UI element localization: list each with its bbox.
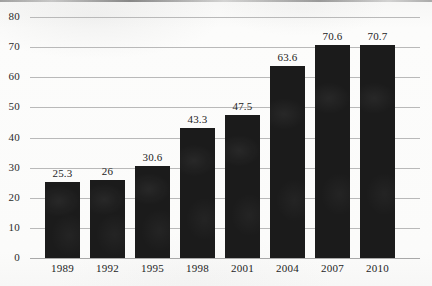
bar-value-label-2001: 47.5 bbox=[217, 100, 268, 112]
y-axis-tick-label: 60 bbox=[0, 70, 20, 82]
x-axis-tick-label-2010: 2010 bbox=[352, 262, 403, 274]
bar-value-label-2010: 70.7 bbox=[352, 30, 403, 42]
bar-value-label-1995: 30.6 bbox=[127, 151, 178, 163]
x-axis-tick-label-2007: 2007 bbox=[307, 262, 358, 274]
x-axis-tick-label-2004: 2004 bbox=[262, 262, 313, 274]
y-axis-tick-label: 30 bbox=[0, 161, 20, 173]
bar-2007 bbox=[315, 45, 350, 258]
x-axis-tick-label-1992: 1992 bbox=[82, 262, 133, 274]
bar-chart: 01020304050607080 25.32630.643.347.563.6… bbox=[0, 0, 432, 286]
bar-value-label-1989: 25.3 bbox=[37, 167, 88, 179]
bar-1995 bbox=[135, 166, 170, 258]
gridline-0 bbox=[30, 258, 420, 259]
y-axis-tick-label: 40 bbox=[0, 131, 20, 143]
x-axis-tick-label-2001: 2001 bbox=[217, 262, 268, 274]
bar-2004 bbox=[270, 66, 305, 258]
x-axis-tick-label-1989: 1989 bbox=[37, 262, 88, 274]
bar-1992 bbox=[90, 180, 125, 258]
y-axis-tick-label: 10 bbox=[0, 221, 20, 233]
y-axis-tick-label: 50 bbox=[0, 100, 20, 112]
bar-1998 bbox=[180, 128, 215, 258]
bar-value-label-1992: 26 bbox=[82, 165, 133, 177]
bar-1989 bbox=[45, 182, 80, 258]
bar-value-label-2004: 63.6 bbox=[262, 51, 313, 63]
x-axis-tick-label-1995: 1995 bbox=[127, 262, 178, 274]
bar-value-label-2007: 70.6 bbox=[307, 30, 358, 42]
x-axis-tick-label-1998: 1998 bbox=[172, 262, 223, 274]
y-axis-tick-label: 20 bbox=[0, 191, 20, 203]
y-axis-tick-label: 0 bbox=[0, 251, 20, 263]
gridline-80 bbox=[30, 17, 420, 18]
y-axis-tick-label: 80 bbox=[0, 10, 20, 22]
bar-value-label-1998: 43.3 bbox=[172, 113, 223, 125]
y-axis-tick-label: 70 bbox=[0, 40, 20, 52]
bar-2001 bbox=[225, 115, 260, 258]
bar-2010 bbox=[360, 45, 395, 258]
